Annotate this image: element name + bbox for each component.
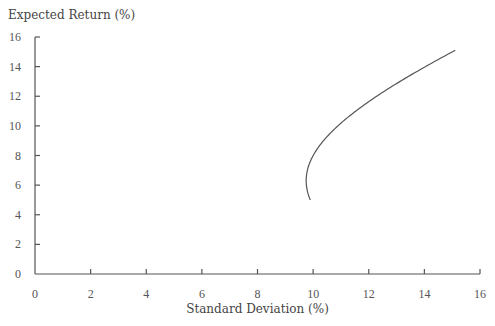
y-tick-label: 10 [9, 119, 21, 133]
y-tick-label: 16 [9, 30, 21, 44]
y-tick-label: 6 [15, 178, 21, 192]
y-tick-label: 0 [15, 267, 21, 281]
frontier-curve [306, 50, 455, 200]
chart-plot: 02468101214160246810121416 [0, 0, 495, 326]
y-tick-label: 4 [15, 208, 21, 222]
y-tick-label: 2 [15, 237, 21, 251]
x-tick-label: 6 [199, 287, 205, 301]
y-tick-label: 12 [9, 89, 21, 103]
x-tick-label: 4 [143, 287, 149, 301]
x-axis-label: Standard Deviation (%) [0, 302, 495, 316]
y-tick-label: 14 [9, 60, 21, 74]
x-tick-label: 14 [418, 287, 430, 301]
axes [35, 37, 480, 274]
x-tick-label: 16 [474, 287, 486, 301]
x-tick-label: 10 [307, 287, 319, 301]
x-tick-label: 2 [88, 287, 94, 301]
x-tick-label: 12 [363, 287, 375, 301]
y-tick-label: 8 [15, 149, 21, 163]
x-tick-label: 8 [255, 287, 261, 301]
x-tick-label: 0 [32, 287, 38, 301]
ticks: 02468101214160246810121416 [9, 30, 486, 301]
